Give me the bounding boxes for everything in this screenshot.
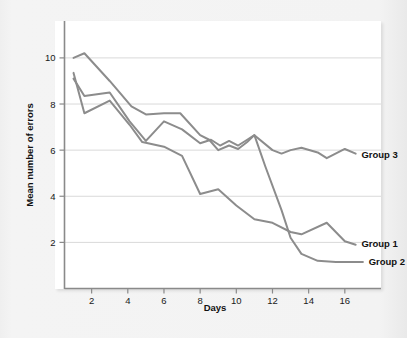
x-tick-label: 10 — [231, 295, 242, 306]
x-tick-label: 8 — [197, 295, 202, 306]
y-tick-label: 2 — [50, 237, 55, 248]
series-lines — [74, 53, 363, 262]
gridlines — [65, 58, 382, 242]
x-tick-label: 16 — [340, 295, 351, 306]
series-line — [74, 73, 356, 245]
series-label: Group 2 — [369, 256, 405, 267]
x-tick-label: 14 — [303, 295, 314, 306]
series-label: Group 1 — [361, 238, 398, 249]
x-axis-title: Days — [204, 302, 227, 313]
y-tick-label: 10 — [45, 52, 56, 63]
y-tick-labels: 246810 — [45, 52, 56, 247]
series-end-labels: Group 2Group 3Group 1 — [361, 149, 405, 267]
figure-container: 246810121416 246810 Group 2Group 3Group … — [0, 0, 407, 338]
line-chart: 246810121416 246810 Group 2Group 3Group … — [0, 0, 407, 338]
series-line — [74, 53, 363, 262]
y-tick-label: 4 — [50, 191, 55, 202]
x-tick-label: 2 — [89, 295, 94, 306]
y-axis-title: Mean number of errors — [24, 103, 35, 206]
x-tick-label: 4 — [125, 295, 130, 306]
y-tick-label: 6 — [50, 145, 55, 156]
x-tick-label: 6 — [161, 295, 166, 306]
y-tick-label: 8 — [50, 99, 55, 110]
x-tick-label: 12 — [267, 295, 278, 306]
series-label: Group 3 — [361, 149, 397, 160]
